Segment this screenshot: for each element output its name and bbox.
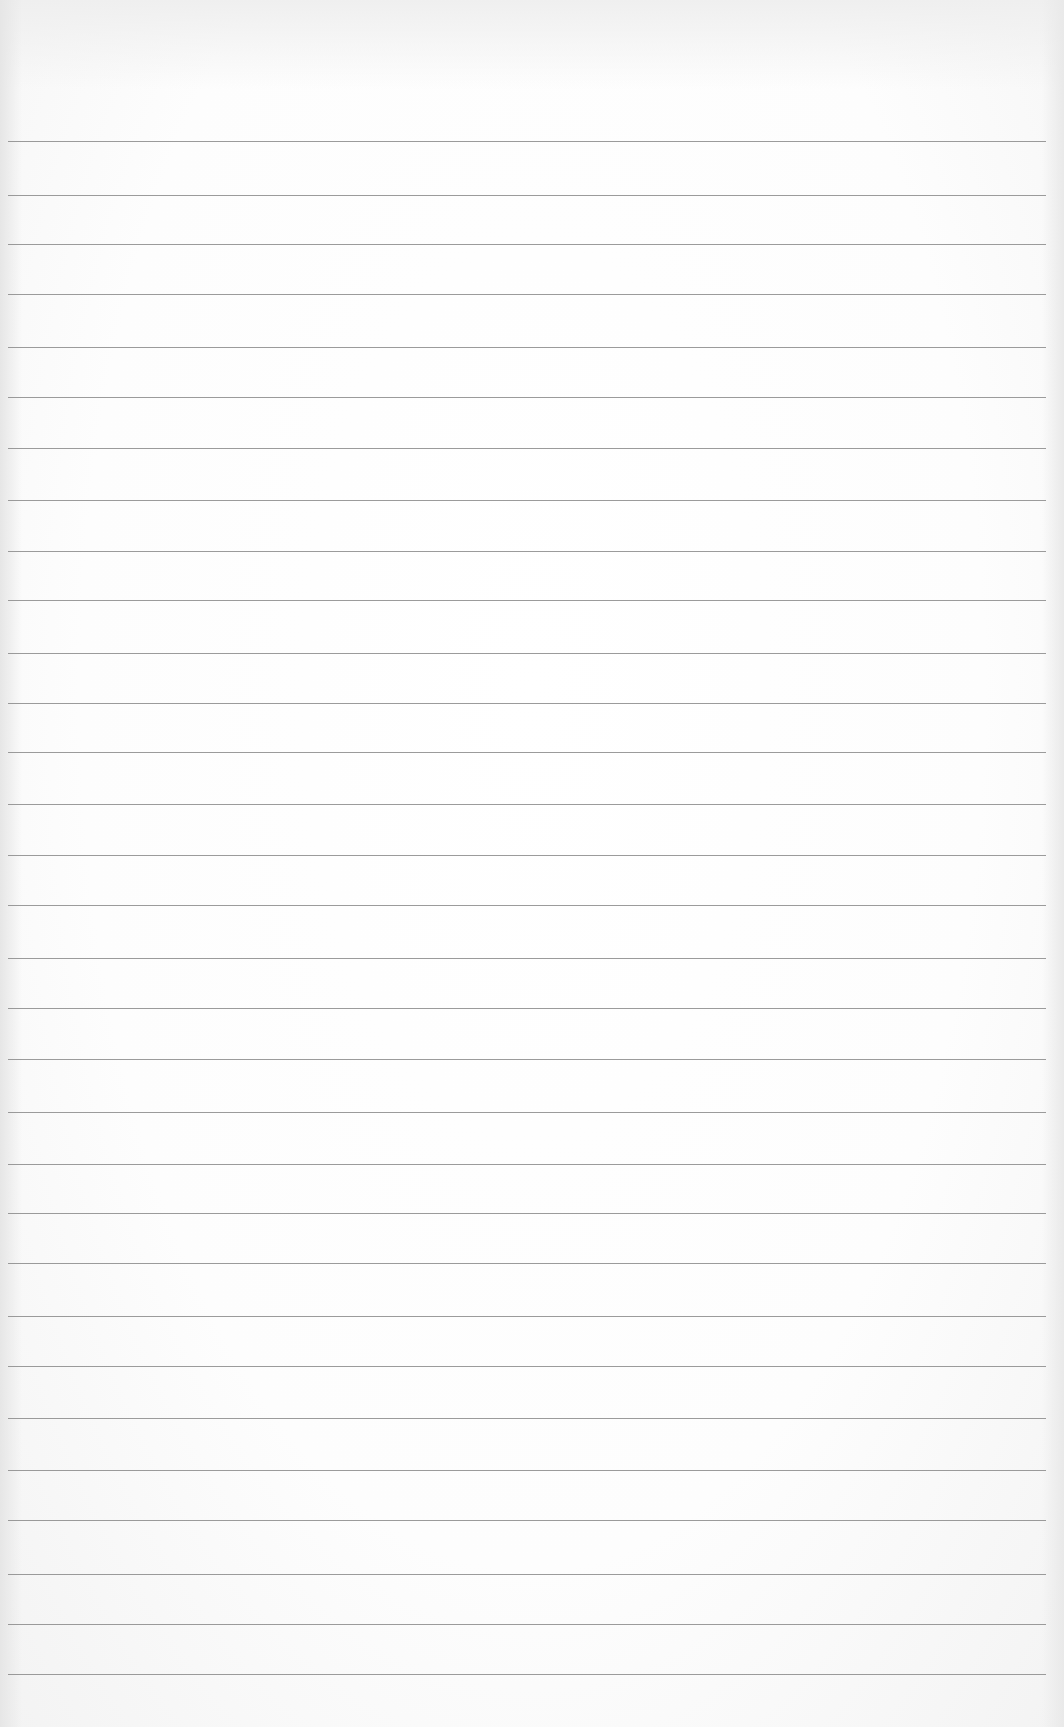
ruled-line — [8, 600, 1046, 601]
paper-right-shadow — [1042, 0, 1064, 1727]
ruled-line — [8, 1624, 1046, 1625]
ruled-line — [8, 1008, 1046, 1009]
ruled-line — [8, 1112, 1046, 1113]
ruled-line — [8, 1674, 1046, 1675]
ruled-line — [8, 1574, 1046, 1575]
ruled-line — [8, 397, 1046, 398]
ruled-line — [8, 500, 1046, 501]
ruled-line — [8, 141, 1046, 142]
ruled-line — [8, 1213, 1046, 1214]
paper-left-shadow — [0, 0, 22, 1727]
ruled-line — [8, 244, 1046, 245]
paper-top-shadow — [0, 0, 1064, 90]
ruled-line — [8, 905, 1046, 906]
ruled-line — [8, 958, 1046, 959]
ruled-line — [8, 448, 1046, 449]
ruled-line — [8, 1418, 1046, 1419]
ruled-line — [8, 1316, 1046, 1317]
ruled-line — [8, 653, 1046, 654]
ruled-line — [8, 752, 1046, 753]
ruled-line — [8, 551, 1046, 552]
ruled-line — [8, 1263, 1046, 1264]
lined-paper — [0, 0, 1064, 1727]
ruled-line — [8, 1059, 1046, 1060]
ruled-line — [8, 703, 1046, 704]
ruled-line — [8, 294, 1046, 295]
ruled-line — [8, 1470, 1046, 1471]
ruled-line — [8, 855, 1046, 856]
ruled-line — [8, 347, 1046, 348]
ruled-line — [8, 1520, 1046, 1521]
ruled-line — [8, 1164, 1046, 1165]
ruled-line — [8, 1366, 1046, 1367]
ruled-line — [8, 195, 1046, 196]
ruled-line — [8, 804, 1046, 805]
